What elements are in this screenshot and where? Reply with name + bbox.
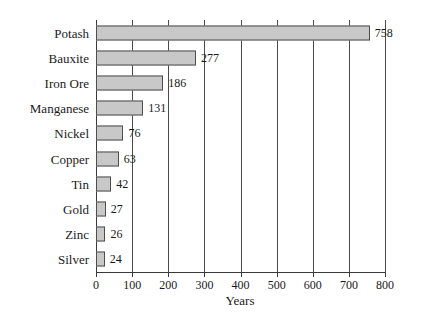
bar-tin xyxy=(96,176,111,191)
bar-row: Bauxite277 xyxy=(96,45,385,70)
tick-mark-600 xyxy=(313,272,314,277)
bar-value-manganese: 131 xyxy=(148,101,166,115)
tick-label-100: 100 xyxy=(112,278,152,292)
category-label-zinc: Zinc xyxy=(65,227,89,242)
gridline-800 xyxy=(385,20,386,272)
bar-row: Silver24 xyxy=(96,247,385,272)
bar-row: Nickel76 xyxy=(96,121,385,146)
bar-value-nickel: 76 xyxy=(128,126,140,140)
tick-label-400: 400 xyxy=(221,278,261,292)
bar-row: Zinc26 xyxy=(96,222,385,247)
bar-value-bauxite: 277 xyxy=(201,51,219,65)
bar-value-gold: 27 xyxy=(111,202,123,216)
tick-mark-300 xyxy=(204,272,205,277)
category-label-copper: Copper xyxy=(51,151,89,166)
bar-row: Tin42 xyxy=(96,171,385,196)
bar-silver xyxy=(96,252,105,267)
category-label-nickel: Nickel xyxy=(54,126,89,141)
plot-area: Potash758Bauxite277Iron Ore186Manganese1… xyxy=(96,20,385,272)
bar-value-tin: 42 xyxy=(116,177,128,191)
tick-label-700: 700 xyxy=(329,278,369,292)
bar-value-zinc: 26 xyxy=(110,227,122,241)
bar-copper xyxy=(96,151,119,166)
category-label-gold: Gold xyxy=(63,201,89,216)
category-label-silver: Silver xyxy=(58,252,89,267)
bar-row: Manganese131 xyxy=(96,96,385,121)
bar-potash xyxy=(96,25,370,40)
bar-value-copper: 63 xyxy=(124,152,136,166)
tick-mark-400 xyxy=(241,272,242,277)
x-axis-title: Years xyxy=(0,293,426,309)
category-label-manganese: Manganese xyxy=(30,101,89,116)
bar-row: Iron Ore186 xyxy=(96,70,385,95)
tick-mark-200 xyxy=(168,272,169,277)
tick-label-500: 500 xyxy=(257,278,297,292)
tick-label-600: 600 xyxy=(293,278,333,292)
tick-mark-100 xyxy=(132,272,133,277)
bar-chart: 0100200300400500600700800 Potash758Bauxi… xyxy=(0,0,426,325)
tick-label-0: 0 xyxy=(76,278,116,292)
bar-gold xyxy=(96,201,106,216)
bar-zinc xyxy=(96,227,105,242)
bar-value-iron-ore: 186 xyxy=(168,76,186,90)
bar-value-potash: 758 xyxy=(375,26,393,40)
tick-label-800: 800 xyxy=(365,278,405,292)
bar-row: Gold27 xyxy=(96,196,385,221)
category-label-tin: Tin xyxy=(71,176,89,191)
bar-bauxite xyxy=(96,50,196,65)
bar-nickel xyxy=(96,126,123,141)
tick-mark-800 xyxy=(385,272,386,277)
category-label-iron-ore: Iron Ore xyxy=(45,75,89,90)
x-axis-title-text: Years xyxy=(225,293,254,309)
bar-value-silver: 24 xyxy=(110,252,122,266)
bar-manganese xyxy=(96,101,143,116)
bar-row: Copper63 xyxy=(96,146,385,171)
bar-row: Potash758 xyxy=(96,20,385,45)
tick-label-300: 300 xyxy=(184,278,224,292)
tick-mark-500 xyxy=(277,272,278,277)
category-label-potash: Potash xyxy=(54,25,89,40)
bar-iron-ore xyxy=(96,75,163,90)
tick-label-200: 200 xyxy=(148,278,188,292)
tick-mark-0 xyxy=(96,272,97,277)
category-label-bauxite: Bauxite xyxy=(49,50,89,65)
tick-mark-700 xyxy=(349,272,350,277)
